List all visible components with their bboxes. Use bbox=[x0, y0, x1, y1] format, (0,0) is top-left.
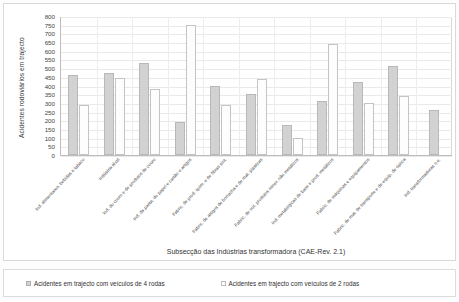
y-axis-tick-label: 250 bbox=[45, 110, 55, 116]
x-axis-title: Subsecção das Indústrias transformadora … bbox=[60, 248, 452, 255]
y-axis-tick-label: 500 bbox=[45, 66, 55, 72]
bar-series-1[interactable] bbox=[246, 94, 256, 155]
y-axis-tick-label: 300 bbox=[45, 101, 55, 107]
bar-series-2[interactable] bbox=[364, 103, 374, 155]
y-axis-tick-label: 550 bbox=[45, 57, 55, 63]
bar-series-1[interactable] bbox=[104, 73, 114, 155]
y-axis-tick-label: 750 bbox=[45, 23, 55, 29]
y-axis-tick-label: 100 bbox=[45, 136, 55, 142]
bar-group bbox=[381, 17, 417, 155]
bar-group bbox=[239, 17, 275, 155]
y-axis-tick-label: 200 bbox=[45, 118, 55, 124]
legend-label-2-rodas: Acidentes em trajecto com veículos de 2 … bbox=[229, 280, 360, 287]
x-axis-category-label: Ind. alimentares, bebidas e tabaco bbox=[34, 157, 86, 212]
bar-group bbox=[97, 17, 133, 155]
bar-series-2[interactable] bbox=[328, 44, 338, 155]
plot-area bbox=[60, 17, 452, 156]
x-axis-category-label: Fabric. de out. produtos miner. não metá… bbox=[233, 157, 299, 228]
bar-series-1[interactable] bbox=[317, 101, 327, 155]
y-axis-tick-label: 150 bbox=[45, 127, 55, 133]
chart-screenshot: Acidentes rodoviários em trajecto 800750… bbox=[0, 0, 459, 302]
legend-swatch-icon-2-rodas bbox=[221, 281, 226, 286]
y-axis-tick-label: 800 bbox=[45, 14, 55, 20]
bar-series-1[interactable] bbox=[388, 66, 398, 155]
bar-group bbox=[274, 17, 310, 155]
bar-group bbox=[168, 17, 204, 155]
y-axis-title: Acidentes rodoviários em trajecto bbox=[13, 12, 29, 164]
x-axis-category-label: Ind. transformadoras n.e. bbox=[403, 157, 442, 198]
bar-series-1[interactable] bbox=[139, 63, 149, 155]
legend-label-4-rodas: Acidentes em trajecto com veículos de 4 … bbox=[34, 280, 165, 287]
bar-group bbox=[310, 17, 346, 155]
y-axis-tick-label: 700 bbox=[45, 31, 55, 37]
bar-series-1[interactable] bbox=[175, 122, 185, 155]
x-axis-category-label: Fabric. de artigos de borracha e de mat.… bbox=[191, 157, 263, 234]
legend-swatch-icon-4-rodas bbox=[26, 281, 31, 286]
bar-series-2[interactable] bbox=[399, 96, 409, 155]
x-axis-category-labels: Ind. alimentares, bebidas e tabacoIndúst… bbox=[60, 157, 452, 245]
bar-series-2[interactable] bbox=[293, 138, 303, 155]
bar-series-1[interactable] bbox=[282, 125, 292, 155]
bar-series-2[interactable] bbox=[115, 78, 125, 155]
y-axis-tick-label: 450 bbox=[45, 75, 55, 81]
bar-series-1[interactable] bbox=[353, 82, 363, 155]
bar-series-2[interactable] bbox=[257, 79, 267, 155]
y-axis-tick-labels: 8007507006506005505004504003503002502001… bbox=[30, 14, 57, 158]
legend-item-2-rodas: Acidentes em trajecto com veículos de 2 … bbox=[221, 280, 360, 287]
x-axis-category-label: Indústria têxtil bbox=[98, 157, 121, 181]
y-axis-tick-label: 600 bbox=[45, 49, 55, 55]
bar-group bbox=[132, 17, 168, 155]
bar-groups bbox=[61, 17, 452, 155]
bar-series-1[interactable] bbox=[210, 86, 220, 156]
bar-group bbox=[203, 17, 239, 155]
x-axis-category-label: Ind. da pasta, do papel e cartão e artig… bbox=[132, 157, 193, 221]
x-axis-category-label: Fabric. de mat. de transporte e de equip… bbox=[332, 157, 406, 236]
chart-frame: Acidentes rodoviários em trajecto 800750… bbox=[3, 3, 456, 261]
bar-group bbox=[416, 17, 452, 155]
y-axis-tick-label: 0 bbox=[52, 153, 55, 159]
bar-series-2[interactable] bbox=[186, 25, 196, 155]
y-axis-tick-label: 350 bbox=[45, 92, 55, 98]
bar-series-2[interactable] bbox=[150, 89, 160, 155]
bar-series-1[interactable] bbox=[429, 110, 439, 155]
bar-series-2[interactable] bbox=[79, 105, 89, 155]
y-axis-tick-label: 650 bbox=[45, 40, 55, 46]
bar-series-1[interactable] bbox=[68, 75, 78, 155]
y-axis-tick-label: 400 bbox=[45, 84, 55, 90]
legend-item-4-rodas: Acidentes em trajecto com veículos de 4 … bbox=[26, 280, 165, 287]
x-axis-category-label: Ind. metalúrgicas de base e prod. metáli… bbox=[271, 157, 335, 225]
bar-group bbox=[345, 17, 381, 155]
y-axis-tick-label: 50 bbox=[48, 144, 55, 150]
bar-group bbox=[61, 17, 97, 155]
bar-series-2[interactable] bbox=[221, 105, 231, 155]
chart-legend: Acidentes em trajecto com veículos de 4 … bbox=[3, 269, 456, 297]
